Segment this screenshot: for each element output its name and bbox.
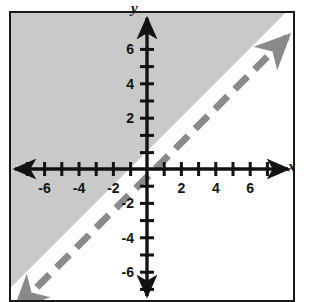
x-tick-label-4: 4 xyxy=(212,181,220,195)
coordinate-plane-svg xyxy=(11,13,293,300)
x-tick-label-neg4: -4 xyxy=(73,181,85,195)
y-tick-label-6: 6 xyxy=(114,42,134,56)
x-tick-label-2: 2 xyxy=(177,181,185,195)
x-tick-label-neg6: -6 xyxy=(38,181,50,195)
y-tick-label-neg6: -6 xyxy=(106,265,134,279)
y-axis-label: y xyxy=(131,1,138,16)
y-tick-label-2: 2 xyxy=(114,111,134,125)
solution-region-shading-upper xyxy=(11,13,293,300)
graph-figure: -6 -4 -2 2 4 6 6 4 2 -2 -4 -6 y x xyxy=(0,0,309,302)
x-tick-label-neg2: -2 xyxy=(107,181,119,195)
y-tick-label-neg4: -4 xyxy=(106,231,134,245)
y-tick-label-4: 4 xyxy=(114,77,134,91)
x-axis-label: x xyxy=(288,159,296,174)
y-tick-label-neg2: -2 xyxy=(106,196,134,210)
x-tick-label-6: 6 xyxy=(246,181,254,195)
plot-frame: -6 -4 -2 2 4 6 6 4 2 -2 -4 -6 xyxy=(9,11,295,302)
